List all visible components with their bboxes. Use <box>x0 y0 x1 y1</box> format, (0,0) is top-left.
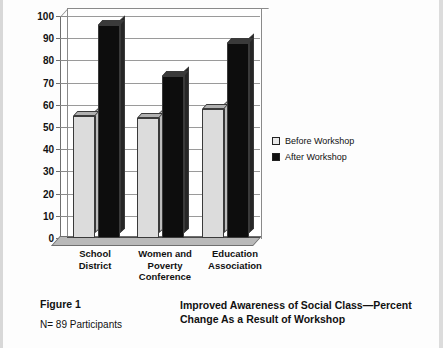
figure-number: Figure 1 <box>40 298 160 310</box>
caption-title-line-2: Change As a Result of Workshop <box>180 312 438 326</box>
y-axis-tick-label: 90 <box>43 33 54 44</box>
x-axis-label-line: Education <box>198 248 272 260</box>
legend-label-after: After Workshop <box>285 152 347 162</box>
x-axis-label-line: Association <box>198 260 272 272</box>
legend-label-before: Before Workshop <box>285 136 354 146</box>
bar-top-face <box>73 111 100 116</box>
bar-front-face <box>162 76 184 238</box>
caption-title-block: Improved Awareness of Social Class—Perce… <box>180 298 438 326</box>
x-axis-label: EducationAssociation <box>198 248 272 271</box>
y-axis-tick-label: 20 <box>43 188 54 199</box>
legend-item-before: Before Workshop <box>272 136 377 146</box>
y-axis-tick-label: 30 <box>43 166 54 177</box>
x-axis-label-line: Poverty <box>128 260 202 272</box>
bar-before <box>202 109 224 238</box>
bar-group <box>67 16 131 238</box>
participants-note: N= 89 Participants <box>40 319 160 330</box>
bar-top-face <box>98 20 125 25</box>
bar-after <box>98 25 120 238</box>
bar-front-face <box>227 43 249 238</box>
bar-series-container <box>67 16 260 238</box>
bar-front-face <box>137 118 159 238</box>
y-axis-tick-label: 10 <box>43 210 54 221</box>
bar-front-face <box>73 116 95 238</box>
bar-side-face <box>120 15 125 233</box>
x-axis-label-line: School <box>58 248 132 260</box>
bar-chart: 1009080706050403020100 SchoolDistrictWom… <box>0 0 443 290</box>
y-axis-tick-label: 100 <box>37 11 54 22</box>
y-axis-tick-label: 60 <box>43 99 54 110</box>
bar-before <box>137 118 159 238</box>
bar-side-face <box>184 66 189 233</box>
x-axis-label-line: Women and <box>128 248 202 260</box>
legend-swatch-before-icon <box>272 137 280 145</box>
legend-item-after: After Workshop <box>272 152 377 162</box>
y-axis-tick-label: 40 <box>43 144 54 155</box>
figure-caption: Figure 1 N= 89 Participants Improved Awa… <box>40 298 440 346</box>
caption-title-line-1: Improved Awareness of Social Class—Perce… <box>180 298 438 312</box>
bar-after <box>227 43 249 238</box>
x-axis-label-line: Conference <box>128 271 202 283</box>
bar-group <box>131 16 195 238</box>
bar-before <box>73 116 95 238</box>
bar-top-face <box>202 104 229 109</box>
bar-after <box>162 76 184 238</box>
chart-legend: Before Workshop After Workshop <box>272 136 377 168</box>
y-axis-tick-label: 50 <box>43 122 54 133</box>
bar-group <box>196 16 260 238</box>
x-axis-label-line: District <box>58 260 132 272</box>
legend-swatch-after-icon <box>272 153 280 161</box>
y-axis-tick-label: 80 <box>43 55 54 66</box>
y-axis-tick-label: 70 <box>43 77 54 88</box>
bar-front-face <box>98 25 120 238</box>
x-axis-category-labels: SchoolDistrictWomen andPovertyConference… <box>60 248 270 290</box>
bar-top-face <box>227 38 254 43</box>
bar-side-face <box>249 33 254 233</box>
caption-left-block: Figure 1 N= 89 Participants <box>40 298 160 330</box>
x-axis-label: Women andPovertyConference <box>128 248 202 283</box>
plot-area: 1009080706050403020100 <box>60 16 260 238</box>
x-axis-label: SchoolDistrict <box>58 248 132 271</box>
bar-front-face <box>202 109 224 238</box>
